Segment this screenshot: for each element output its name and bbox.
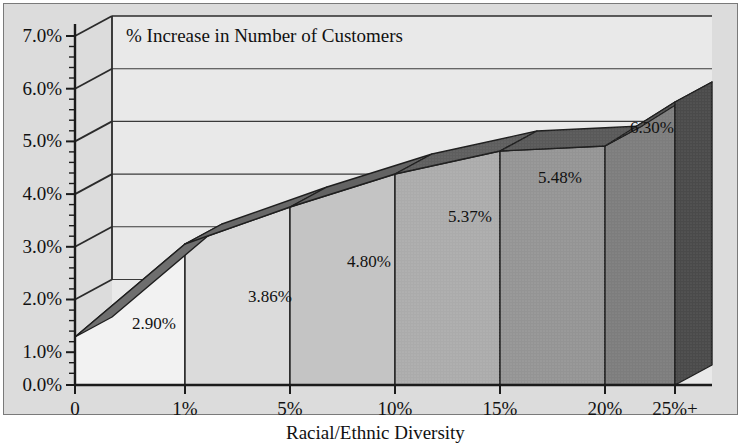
y-axis-ticks	[66, 36, 75, 385]
chart-canvas	[0, 0, 743, 448]
x-tick-label-0: 0	[45, 398, 105, 420]
chart-screenshot: % Increase in Number of Customers 7.0% 6…	[0, 0, 743, 448]
y-tick-label-5: 5.0%	[8, 130, 62, 152]
data-label-0: 2.90%	[132, 314, 176, 334]
y-tick-label-4: 4.0%	[8, 183, 62, 205]
x-tick-label-2: 5%	[260, 398, 320, 420]
x-tick-label-5: 20%	[573, 398, 637, 420]
x-tick-label-3: 10%	[363, 398, 427, 420]
x-axis-title: Racial/Ethnic Diversity	[286, 422, 465, 444]
y-tick-label-7: 7.0%	[8, 25, 62, 47]
x-tick-label-4: 15%	[468, 398, 532, 420]
x-axis-ticks	[75, 385, 675, 394]
y-tick-label-1: 1.0%	[8, 341, 62, 363]
x-tick-label-6: 25%+	[637, 398, 713, 420]
y-tick-label-0: 0.0%	[8, 374, 62, 396]
area-segment-3	[290, 174, 395, 385]
data-label-5: 6.30%	[630, 118, 674, 138]
y-tick-label-3: 3.0%	[8, 236, 62, 258]
data-label-2: 4.80%	[347, 252, 391, 272]
x-tick-label-1: 1%	[155, 398, 215, 420]
data-label-4: 5.48%	[538, 168, 582, 188]
data-label-3: 5.37%	[448, 207, 492, 227]
y-tick-label-6: 6.0%	[8, 78, 62, 100]
y-tick-label-2: 2.0%	[8, 288, 62, 310]
chart-title: % Increase in Number of Customers	[126, 25, 403, 47]
data-label-1: 3.86%	[248, 287, 292, 307]
